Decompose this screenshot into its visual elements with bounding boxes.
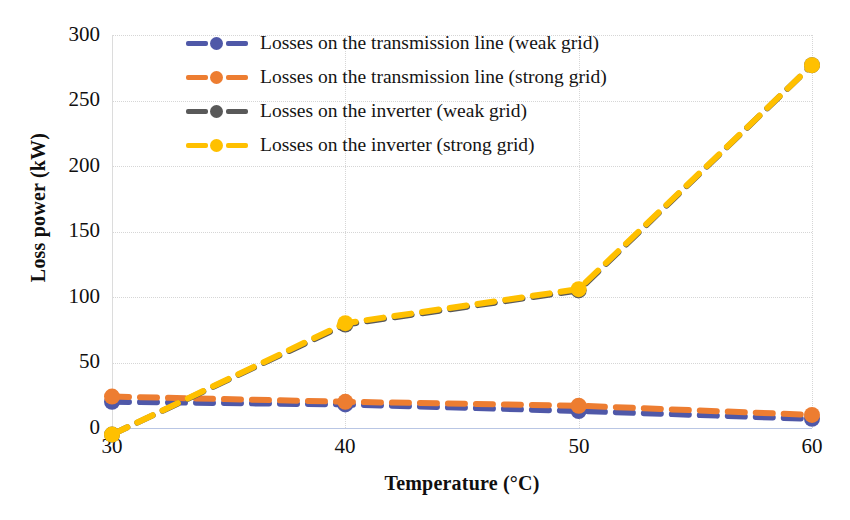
data-point-marker [337,315,353,331]
legend-swatch-icon [186,104,248,118]
legend-item-label: Losses on the transmission line (weak gr… [260,32,599,54]
y-tick-label: 50 [40,351,100,372]
y-tick-label: 200 [40,155,100,176]
legend: Losses on the transmission line (weak gr… [186,26,706,162]
y-tick-label: 300 [40,24,100,45]
legend-item-transmission-weak[interactable]: Losses on the transmission line (weak gr… [186,26,706,60]
legend-swatch-icon [186,70,248,84]
x-axis-line [112,428,812,429]
data-point-marker [804,57,820,73]
loss-power-chart: Loss power (kW) Temperature (°C) 300 250… [0,0,850,520]
y-tick-label: 250 [40,89,100,110]
x-tick-label: 60 [782,436,842,457]
x-tick-label: 40 [315,436,375,457]
data-point-marker [804,407,820,423]
data-point-marker [571,398,587,414]
data-point-marker [104,427,120,443]
data-point-marker [571,281,587,297]
legend-swatch-icon [186,138,248,152]
legend-item-label: Losses on the transmission line (strong … [260,66,607,88]
data-point-marker [104,389,120,405]
x-tick-label: 50 [549,436,609,457]
legend-item-transmission-strong[interactable]: Losses on the transmission line (strong … [186,60,706,94]
data-point-marker [337,394,353,410]
legend-item-label: Losses on the inverter (strong grid) [260,134,535,156]
legend-item-label: Losses on the inverter (weak grid) [260,100,527,122]
y-tick-label: 150 [40,220,100,241]
x-axis-title: Temperature (°C) [112,472,812,495]
y-axis-title: Loss power (kW) [27,108,50,308]
y-tick-label: 100 [40,286,100,307]
legend-item-inverter-weak[interactable]: Losses on the inverter (weak grid) [186,94,706,128]
legend-swatch-icon [186,36,248,50]
y-tick-label: 0 [40,417,100,438]
legend-item-inverter-strong[interactable]: Losses on the inverter (strong grid) [186,128,706,162]
series-line [112,397,812,415]
